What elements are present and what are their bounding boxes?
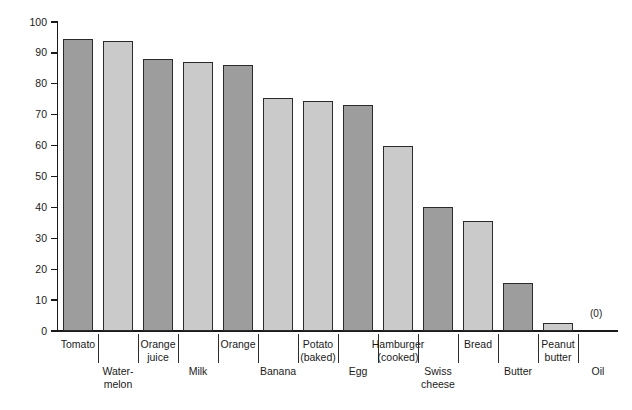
x-axis-category-label: Tomato	[38, 338, 118, 351]
bar	[463, 221, 493, 331]
x-axis-category-label: Hamburger (cooked)	[358, 338, 438, 363]
bar	[343, 105, 373, 331]
y-axis-tick-value: 30	[13, 233, 47, 244]
zero-value-annotation: (0)	[590, 309, 602, 319]
y-axis-tick	[51, 207, 58, 208]
y-axis-tick-label: 20	[0, 264, 47, 275]
x-axis-category-label: Milk	[158, 365, 238, 378]
bar	[303, 101, 333, 331]
x-axis-label-separator	[98, 334, 99, 363]
y-axis-tick	[51, 238, 58, 239]
y-axis-tick	[51, 269, 58, 270]
x-axis-category-label: Potato (baked)	[278, 338, 358, 363]
x-axis-label-separator	[258, 334, 259, 363]
y-axis-tick-value: 60	[13, 140, 47, 151]
y-axis-tick-value: 90	[13, 47, 47, 58]
bar	[423, 207, 453, 331]
bar	[183, 62, 213, 331]
x-axis-category-label: Orange	[198, 338, 278, 351]
y-axis-tick	[51, 83, 58, 84]
x-axis-category-label: Butter	[478, 365, 558, 378]
x-axis-label-separator	[418, 334, 419, 363]
y-axis-tick-label: 80	[0, 78, 47, 89]
y-axis-tick-label: 100	[0, 17, 47, 28]
y-axis-tick-label: 10	[0, 295, 47, 306]
x-axis-category-label: Banana	[238, 365, 318, 378]
y-axis-tick-value: 100	[13, 17, 47, 28]
bar	[503, 283, 533, 331]
x-axis-label-separator	[338, 334, 339, 363]
x-axis-category-label: Oil	[558, 365, 632, 378]
x-axis-category-label: Bread	[438, 338, 518, 351]
y-axis-tick-label: 70	[0, 109, 47, 120]
x-axis-category-label: Peanut butter	[518, 338, 598, 363]
x-axis-labels: TomatoWater- melonOrange juiceMilkOrange…	[0, 331, 632, 410]
x-axis-category-label: Water- melon	[78, 365, 158, 390]
x-axis-label-separator	[578, 334, 579, 363]
y-axis-tick-value: 10	[13, 295, 47, 306]
y-axis-tick-value: 50	[13, 171, 47, 182]
plot-area: (0)	[58, 22, 618, 331]
y-axis-tick-label: 60	[0, 140, 47, 151]
x-axis-label-separator	[498, 334, 499, 363]
bar	[543, 323, 573, 331]
y-axis-tick	[51, 176, 58, 177]
y-axis-tick-label: 90	[0, 47, 47, 58]
y-axis-tick-value: 80	[13, 78, 47, 89]
x-axis-category-label: Swiss cheese	[398, 365, 478, 390]
y-axis-tick-label: 30	[0, 233, 47, 244]
y-axis-tick	[51, 145, 58, 146]
bar	[383, 146, 413, 331]
y-axis-tick-value: 40	[13, 202, 47, 213]
y-axis-tick	[51, 114, 58, 115]
bar	[63, 39, 93, 331]
bar	[143, 59, 173, 331]
y-axis-tick	[51, 52, 58, 53]
y-axis-tick	[51, 21, 58, 22]
bar-chart: % Water 0102030405060708090100 (0) Tomat…	[0, 0, 632, 410]
x-axis-category-label: Orange juice	[118, 338, 198, 363]
y-axis-tick	[51, 299, 58, 300]
bar	[103, 41, 133, 331]
x-axis-category-label: Egg	[318, 365, 398, 378]
y-axis-tick-label: 40	[0, 202, 47, 213]
y-axis-tick-value: 20	[13, 264, 47, 275]
y-axis-tick-label: 50	[0, 171, 47, 182]
bar	[223, 65, 253, 331]
bar	[263, 98, 293, 331]
x-axis-label-separator	[178, 334, 179, 363]
y-axis-tick-value: 70	[13, 109, 47, 120]
